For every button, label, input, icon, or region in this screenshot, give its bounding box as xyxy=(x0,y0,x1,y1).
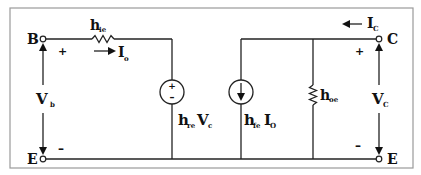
vb-label: V xyxy=(35,90,48,108)
hie-subscript: ie xyxy=(99,25,107,34)
input-plus-sign: + xyxy=(58,45,67,58)
hoe-subscript: oe xyxy=(329,95,339,104)
vc-factor-subscript: c xyxy=(208,121,212,130)
base-terminal-icon xyxy=(40,36,46,42)
vsource-minus: – xyxy=(170,92,175,103)
dependent-current-source xyxy=(229,80,253,104)
output-minus-sign: – xyxy=(355,139,361,153)
input-minus-sign: – xyxy=(58,142,64,156)
collector-label: C xyxy=(387,31,398,47)
hfe-subscript: fe xyxy=(253,121,261,130)
hre-subscript: re xyxy=(187,121,196,130)
vb-subscript: b xyxy=(50,100,55,109)
hie-resistor-icon xyxy=(92,36,114,43)
emitter-right-label: E xyxy=(387,151,398,167)
io-subscript: o xyxy=(124,54,129,63)
base-label: B xyxy=(27,31,39,47)
circuit-diagram: + – B E V b + – h ie I o h re V c h fe I… xyxy=(0,0,421,175)
vc-subscript: C xyxy=(383,100,389,109)
hoe-resistor-icon xyxy=(310,85,317,105)
output-plus-sign: + xyxy=(355,45,364,58)
emitter-left-terminal-icon xyxy=(40,156,46,162)
diagram-border xyxy=(10,8,413,168)
emitter-right-terminal-icon xyxy=(376,156,382,162)
vsource-plus: + xyxy=(168,81,176,91)
dependent-voltage-source: + – xyxy=(160,80,184,104)
io-factor-subscript: O xyxy=(270,121,276,130)
collector-terminal-icon xyxy=(376,36,382,42)
emitter-left-label: E xyxy=(27,151,38,167)
ic-subscript: C xyxy=(373,24,379,33)
